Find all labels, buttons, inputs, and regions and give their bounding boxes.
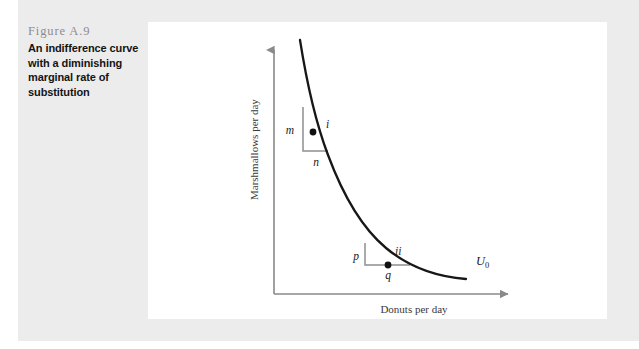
figure-number: Figure A.9	[28, 24, 140, 39]
figure-page: Figure A.9 An indifference curve with a …	[0, 0, 639, 349]
figure-caption: Figure A.9 An indifference curve with a …	[28, 24, 140, 99]
slope-rise-label-upper: m	[286, 124, 294, 136]
data-point-ii	[385, 262, 392, 269]
slope-rise-label-lower: p	[352, 250, 359, 263]
slope-run-label-upper: n	[313, 156, 319, 168]
figure-title: An indifference curve with a diminishing…	[28, 41, 140, 99]
plot-panel: Marshmallows per day Donuts per day m n …	[148, 22, 607, 319]
data-point-label-i: i	[326, 118, 329, 130]
indifference-curve	[300, 40, 466, 279]
y-axis-label: Marshmallows per day	[248, 99, 260, 200]
page-bottom-margin	[0, 341, 639, 349]
slope-run-label-lower: q	[385, 269, 391, 282]
indifference-curve-chart: Marshmallows per day Donuts per day m n …	[148, 22, 607, 319]
curve-label-subscript: 0	[485, 260, 489, 270]
data-point-i	[310, 129, 317, 136]
data-point-label-ii: ii	[395, 245, 401, 257]
x-axis-label: Donuts per day	[380, 303, 448, 315]
